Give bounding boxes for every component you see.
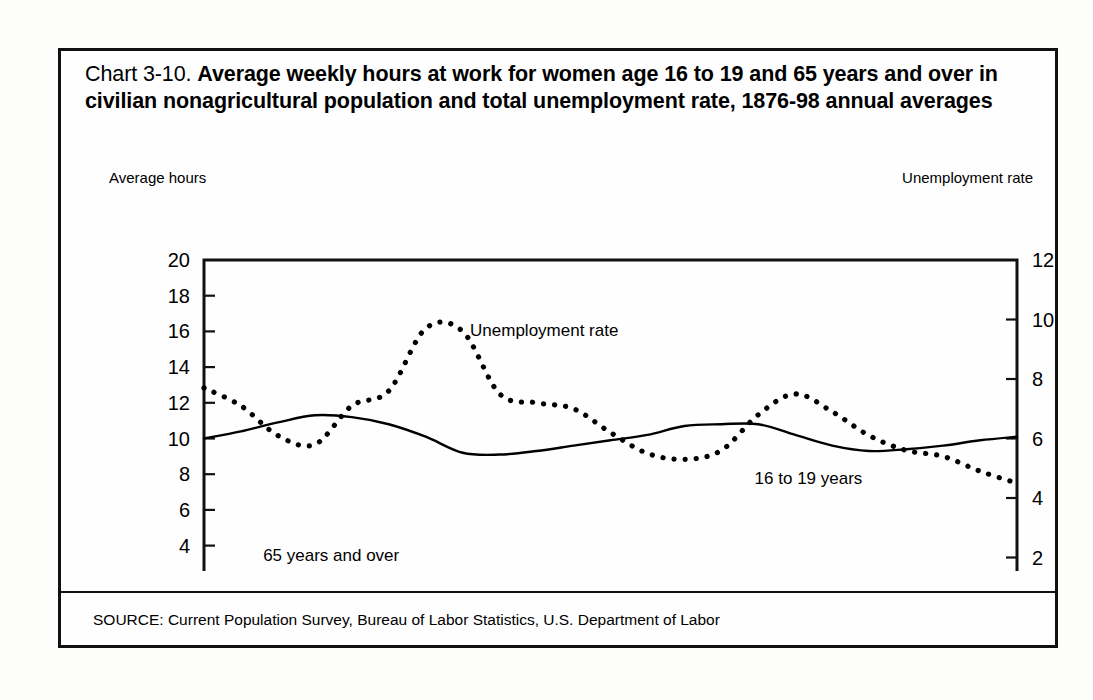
y-tick-label-right: 4 <box>1032 487 1043 509</box>
y-tick-label-left: 12 <box>168 392 190 414</box>
y-tick-label-left: 6 <box>179 499 190 521</box>
right-axis-caption: Unemployment rate <box>902 169 1033 186</box>
chart-title: Chart 3-10. Average weekly hours at work… <box>85 61 1035 115</box>
series-line-2 <box>204 322 1017 483</box>
y-tick-label-left: 20 <box>168 249 190 271</box>
y-tick-label-left: 10 <box>168 428 190 450</box>
y-tick-label-left: 2 <box>179 570 190 571</box>
y-tick-label-left: 18 <box>168 285 190 307</box>
y-tick-label-right: 2 <box>1032 547 1043 569</box>
page-root: Chart 3-10. Average weekly hours at work… <box>0 0 1093 700</box>
y-tick-label-left: 14 <box>168 356 190 378</box>
annotation-label-0: Unemployment rate <box>470 321 618 340</box>
annotation-label-1: 16 to 19 years <box>755 469 863 488</box>
series-group <box>204 322 1017 571</box>
annotation-label-2: 65 years and over <box>263 546 399 565</box>
y-tick-label-right: 8 <box>1032 368 1043 390</box>
figure-container: Chart 3-10. Average weekly hours at work… <box>58 48 1058 648</box>
chart-title-prefix: Chart 3-10. <box>85 62 197 86</box>
source-divider <box>61 591 1055 593</box>
chart-svg: 0246810121416182002468101219761978198019… <box>61 191 1055 571</box>
source-note: SOURCE: Current Population Survey, Burea… <box>93 611 720 629</box>
plot-area: 0246810121416182002468101219761978198019… <box>61 191 1055 571</box>
series-annotations: Unemployment rate16 to 19 years65 years … <box>263 321 862 565</box>
y-tick-label-right: 12 <box>1032 249 1054 271</box>
axis-tick-labels: 0246810121416182002468101219761978198019… <box>168 249 1055 571</box>
y-tick-label-left: 16 <box>168 320 190 342</box>
y-tick-label-left: 4 <box>179 535 190 557</box>
y-tick-label-right: 10 <box>1032 309 1054 331</box>
left-axis-caption: Average hours <box>109 169 206 186</box>
y-tick-label-right: 6 <box>1032 428 1043 450</box>
y-tick-label-left: 8 <box>179 463 190 485</box>
chart-title-main: Average weekly hours at work for women a… <box>85 62 998 113</box>
